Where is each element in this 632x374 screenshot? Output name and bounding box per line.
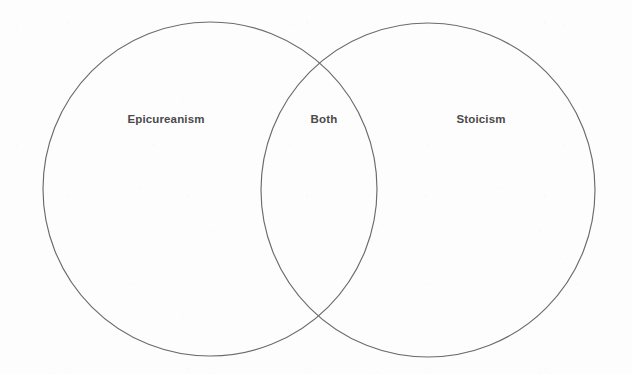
venn-label-stoicism: Stoicism: [456, 114, 505, 126]
venn-circle-right: [261, 23, 595, 357]
venn-circle-left: [43, 22, 377, 356]
venn-label-both: Both: [311, 114, 338, 126]
venn-diagram-svg: [0, 0, 632, 374]
venn-label-epicureanism: Epicureanism: [127, 114, 204, 126]
venn-diagram-canvas: Epicureanism Both Stoicism: [0, 0, 632, 374]
